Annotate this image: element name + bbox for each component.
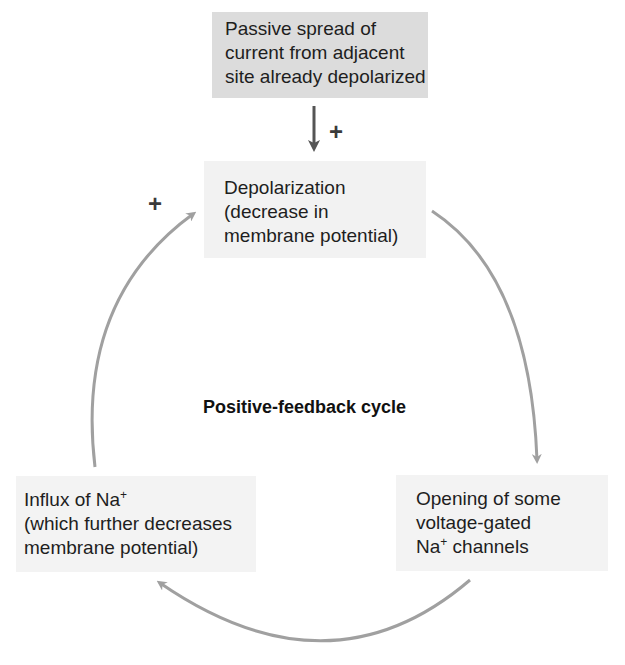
cycle-title: Positive-feedback cycle	[203, 397, 406, 418]
box-passive-spread: Passive spread of current from adjacent …	[212, 12, 428, 98]
box-text-line: site already depolarized	[225, 65, 428, 89]
plus-sign-feedback: +	[148, 192, 162, 216]
text-fragment: Influx of Na	[24, 489, 120, 510]
box-text-line: Influx of Na+	[24, 488, 256, 512]
text-fragment: channels	[447, 536, 528, 557]
arrow-depolarization-to-opening	[432, 211, 537, 460]
arrow-opening-to-influx	[160, 580, 470, 641]
box-text-line: membrane potential)	[24, 536, 256, 560]
arrow-influx-to-depolarization	[92, 214, 193, 467]
box-text-line: voltage-gated	[416, 511, 608, 535]
box-text-line: Passive spread of	[225, 17, 428, 41]
box-text-line: (decrease in	[224, 200, 426, 224]
box-channel-opening: Opening of some voltage-gated Na+ channe…	[396, 475, 608, 571]
plus-sign-input: +	[329, 120, 343, 144]
superscript-charge: +	[120, 488, 127, 502]
box-text-line: current from adjacent	[225, 41, 428, 65]
box-text-line: Depolarization	[224, 176, 426, 200]
box-text-line: membrane potential)	[224, 224, 426, 248]
box-text-line: Opening of some	[416, 487, 608, 511]
box-text-line: (which further decreases	[24, 512, 256, 536]
box-depolarization: Depolarization (decrease in membrane pot…	[204, 161, 426, 258]
box-na-influx: Influx of Na+ (which further decreases m…	[16, 476, 256, 572]
box-text-line: Na+ channels	[416, 535, 608, 559]
text-fragment: Na	[416, 536, 440, 557]
